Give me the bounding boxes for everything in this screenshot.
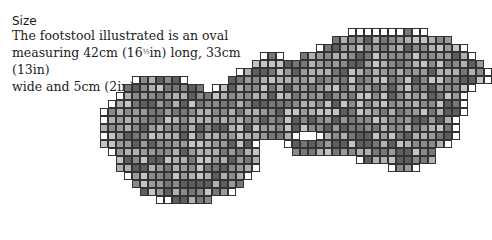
grid-cell xyxy=(204,124,212,132)
grid-cell xyxy=(444,76,452,84)
grid-cell xyxy=(308,76,316,84)
grid-cell xyxy=(428,140,436,148)
grid-cell xyxy=(412,124,420,132)
grid-cell xyxy=(188,116,196,124)
grid-cell xyxy=(292,124,300,132)
grid-cell xyxy=(156,148,164,156)
grid-cell xyxy=(236,180,244,188)
grid-cell xyxy=(244,68,252,76)
grid-cell xyxy=(372,156,380,164)
grid-cell xyxy=(404,84,412,92)
grid-cell xyxy=(364,108,372,116)
grid-cell xyxy=(316,108,324,116)
grid-cell xyxy=(396,60,404,68)
grid-cell xyxy=(164,148,172,156)
grid-cell xyxy=(356,116,364,124)
grid-cell xyxy=(364,60,372,68)
grid-cell xyxy=(476,76,484,84)
grid-cell xyxy=(228,140,236,148)
grid-cell xyxy=(300,92,308,100)
grid-cell xyxy=(348,108,356,116)
grid-cell xyxy=(372,36,380,44)
grid-cell xyxy=(324,92,332,100)
grid-cell xyxy=(276,84,284,92)
grid-cell xyxy=(204,116,212,124)
grid-cell xyxy=(196,116,204,124)
grid-cell xyxy=(124,140,132,148)
grid-cell xyxy=(404,76,412,84)
grid-cell xyxy=(332,84,340,92)
grid-cell xyxy=(364,156,372,164)
grid-cell xyxy=(284,116,292,124)
grid-cell xyxy=(460,44,468,52)
grid-cell xyxy=(372,148,380,156)
grid-cell xyxy=(468,60,476,68)
grid-cell xyxy=(180,148,188,156)
grid-cell xyxy=(276,108,284,116)
grid-cell xyxy=(348,68,356,76)
grid-cell xyxy=(404,60,412,68)
grid-cell xyxy=(212,188,220,196)
grid-cell xyxy=(340,140,348,148)
grid-cell xyxy=(148,164,156,172)
grid-cell xyxy=(116,156,124,164)
grid-cell xyxy=(436,132,444,140)
grid-cell xyxy=(236,164,244,172)
grid-cell xyxy=(452,52,460,60)
grid-cell xyxy=(356,140,364,148)
grid-cell xyxy=(348,52,356,60)
grid-cell xyxy=(228,148,236,156)
grid-cell xyxy=(308,140,316,148)
grid-cell xyxy=(116,164,124,172)
grid-cell xyxy=(332,148,340,156)
grid-cell xyxy=(308,124,316,132)
grid-cell xyxy=(460,52,468,60)
grid-cell xyxy=(124,172,132,180)
grid-cell xyxy=(372,76,380,84)
grid-cell xyxy=(124,148,132,156)
grid-cell xyxy=(428,60,436,68)
grid-cell xyxy=(380,132,388,140)
grid-cell xyxy=(252,100,260,108)
grid-cell xyxy=(156,76,164,84)
grid-cell xyxy=(132,108,140,116)
grid-cell xyxy=(412,92,420,100)
grid-cell xyxy=(340,60,348,68)
grid-cell xyxy=(388,76,396,84)
grid-cell xyxy=(388,92,396,100)
grid-cell xyxy=(244,84,252,92)
grid-cell xyxy=(348,124,356,132)
grid-cell xyxy=(324,140,332,148)
grid-cell xyxy=(380,156,388,164)
grid-cell xyxy=(188,100,196,108)
grid-cell xyxy=(108,124,116,132)
grid-cell xyxy=(452,60,460,68)
grid-cell xyxy=(428,100,436,108)
grid-cell xyxy=(124,124,132,132)
grid-cell xyxy=(212,124,220,132)
grid-cell xyxy=(308,148,316,156)
grid-cell xyxy=(300,84,308,92)
grid-cell xyxy=(268,108,276,116)
grid-cell xyxy=(220,92,228,100)
grid-cell xyxy=(132,164,140,172)
grid-cell xyxy=(132,76,140,84)
grid-cell xyxy=(332,68,340,76)
grid-cell xyxy=(300,108,308,116)
grid-cell xyxy=(316,140,324,148)
grid-cell xyxy=(380,76,388,84)
grid-cell xyxy=(404,116,412,124)
grid-cell xyxy=(252,116,260,124)
grid-cell xyxy=(404,44,412,52)
grid-cell xyxy=(436,76,444,84)
grid-cell xyxy=(236,108,244,116)
grid-cell xyxy=(164,140,172,148)
grid-cell xyxy=(300,140,308,148)
grid-cell xyxy=(292,76,300,84)
grid-cell xyxy=(332,100,340,108)
grid-cell xyxy=(444,52,452,60)
grid-cell xyxy=(324,60,332,68)
grid-cell xyxy=(420,68,428,76)
grid-cell xyxy=(388,132,396,140)
grid-cell xyxy=(196,132,204,140)
